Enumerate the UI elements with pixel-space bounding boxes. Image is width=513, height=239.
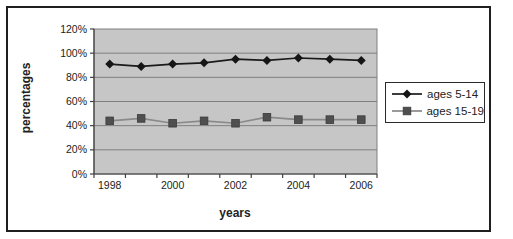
data-point-square [200, 117, 208, 125]
legend-label: ages 15-19 [426, 105, 484, 117]
y-tick-label: 80% [66, 71, 87, 83]
data-point-square [295, 116, 303, 124]
data-point-square [357, 116, 365, 124]
legend-label: ages 5-14 [427, 88, 478, 100]
x-tick-label: 2004 [287, 179, 311, 191]
legend-diamond-marker-icon [391, 88, 423, 100]
data-point-square [169, 119, 177, 127]
legend-entry-ages-5-14: ages 5-14 [391, 88, 484, 100]
y-axis-title: percentages [19, 63, 33, 134]
y-tick-label: 100% [60, 47, 87, 59]
data-point-square [232, 119, 240, 127]
legend: ages 5-14 ages 15-19 [385, 82, 485, 123]
x-tick-label: 1998 [98, 179, 122, 191]
y-tick-label: 60% [66, 95, 87, 107]
y-tick-label: 0% [72, 168, 87, 180]
x-tick-label: 2002 [224, 179, 248, 191]
legend-entry-ages-15-19: ages 15-19 [391, 105, 484, 117]
chart-frame: 0%20%40%60%80%100%120%199820002002200420… [6, 6, 491, 232]
y-tick-label: 120% [60, 23, 87, 35]
diamond-marker-icon [403, 90, 412, 99]
data-point-square [106, 117, 114, 125]
data-point-square [137, 115, 145, 123]
data-point-square [263, 113, 271, 121]
y-tick-label: 40% [66, 119, 87, 131]
x-axis-title: years [219, 206, 250, 220]
legend-square-marker-icon [391, 105, 422, 117]
data-point-square [326, 116, 334, 124]
square-marker-icon [403, 107, 411, 115]
x-tick-label: 2000 [161, 179, 185, 191]
x-tick-label: 2006 [350, 179, 374, 191]
y-tick-label: 20% [66, 143, 87, 155]
